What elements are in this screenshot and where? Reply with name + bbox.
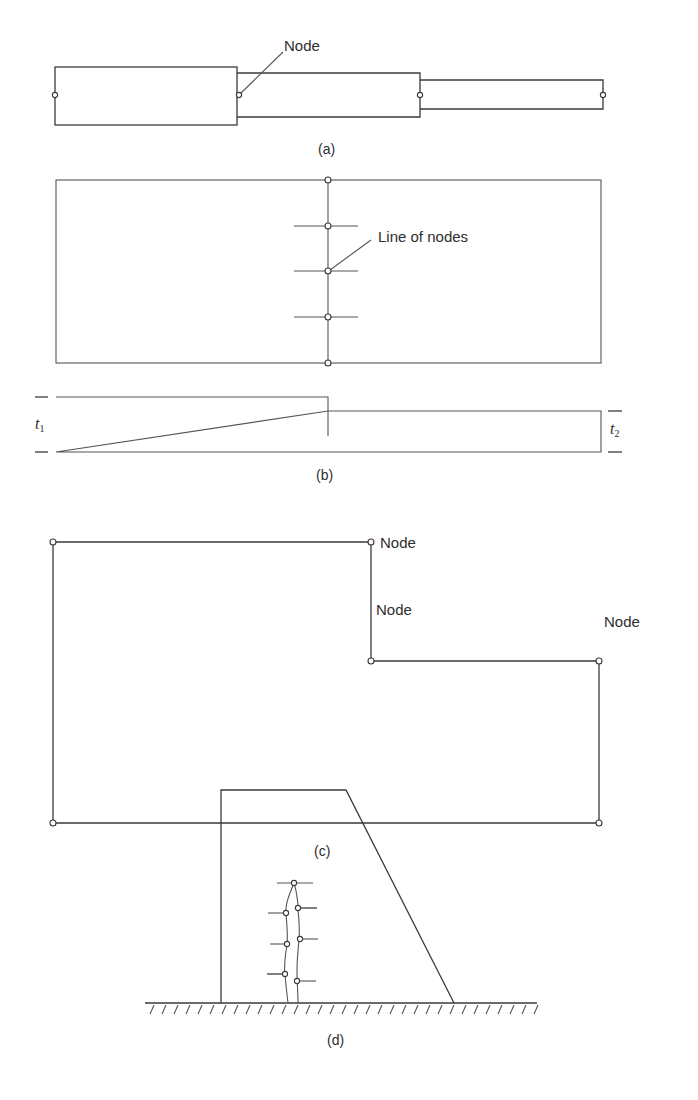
panel-c: Node Node Node (c) <box>50 534 640 859</box>
node-icon <box>417 92 422 97</box>
node-icon <box>325 177 331 183</box>
dam-outline <box>221 790 454 1003</box>
caption-a: (a) <box>318 141 335 157</box>
node-icon <box>325 223 331 229</box>
node-icon <box>50 820 56 826</box>
ground-hatching <box>150 1005 538 1014</box>
line-of-nodes-leader <box>330 240 371 270</box>
figure-canvas: Node (a) Line of nodes t1 t2 (b) <box>0 0 698 1100</box>
panel-d: (d) <box>145 790 538 1048</box>
node-icon <box>283 910 288 915</box>
node-icon <box>291 880 296 885</box>
thickness-label-t1: t1 <box>35 415 44 434</box>
node-icon <box>368 539 374 545</box>
node-icon <box>596 820 602 826</box>
l-shape-outline <box>53 542 599 823</box>
caption-b: (b) <box>316 467 333 483</box>
panel-a: Node (a) <box>52 37 605 157</box>
crack-line-right <box>294 883 299 1003</box>
caption-c: (c) <box>314 843 330 859</box>
node-icon <box>325 360 331 366</box>
line-of-nodes-label: Line of nodes <box>378 228 468 245</box>
caption-d: (d) <box>327 1032 344 1048</box>
node-icon <box>295 905 300 910</box>
bar-segment-1 <box>55 67 237 125</box>
node-icon <box>236 92 241 97</box>
panel-b: Line of nodes t1 t2 (b) <box>35 177 622 483</box>
node-icon <box>284 941 289 946</box>
node-icon <box>297 936 302 941</box>
node-label: Node <box>284 37 320 54</box>
node-icon <box>325 314 331 320</box>
node-label-right: Node <box>604 613 640 630</box>
node-icon <box>600 92 605 97</box>
node-icon <box>50 539 56 545</box>
node-icon <box>368 658 374 664</box>
thickness-label-t2: t2 <box>610 420 619 439</box>
bar-segment-2 <box>237 73 420 117</box>
thickness-profile <box>56 397 601 452</box>
node-label-top: Node <box>380 534 416 551</box>
node-label-reentrant: Node <box>376 601 412 618</box>
bar-segment-3 <box>420 80 603 109</box>
node-icon <box>294 978 299 983</box>
node-icon <box>52 92 57 97</box>
node-icon <box>282 971 287 976</box>
node-icon <box>325 268 331 274</box>
node-icon <box>596 658 602 664</box>
